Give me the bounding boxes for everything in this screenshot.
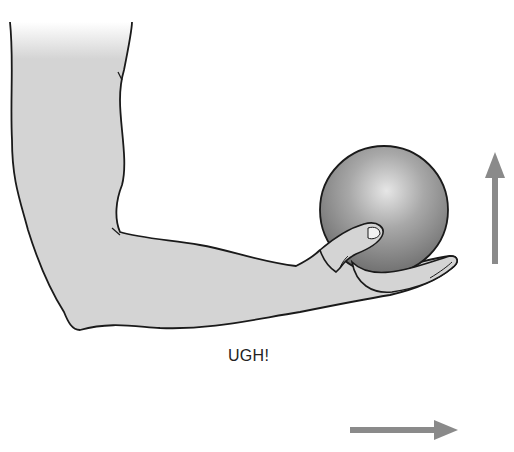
right-arrow-icon bbox=[350, 420, 458, 440]
arm-ball-illustration bbox=[0, 0, 514, 452]
up-arrow-icon bbox=[485, 152, 505, 264]
caption-ugh: UGH! bbox=[228, 347, 269, 365]
arm-outline-upper bbox=[116, 22, 320, 266]
